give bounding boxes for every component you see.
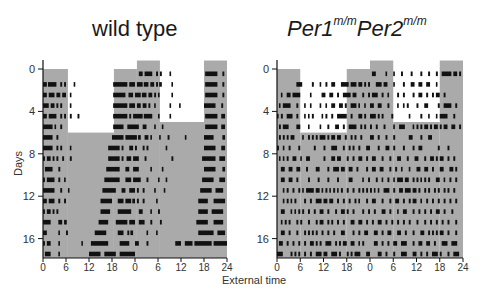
x-tick-label: 18 [341,262,353,273]
actogram-per-mutant: 048121606121806121824 [0,0,481,294]
y-tick-label: 12 [257,190,269,202]
x-axis: 06121806121824 [274,258,469,273]
x-tick-label: 12 [411,262,423,273]
x-tick-label: 18 [434,262,446,273]
x-tick-label: 12 [318,262,330,273]
y-tick-label: 4 [263,105,269,117]
y-tick-label: 8 [263,148,269,160]
y-axis-label: Days [12,151,24,176]
y-tick-label: 0 [263,63,269,75]
x-tick-label: 24 [457,262,469,273]
x-tick-label: 6 [297,262,303,273]
x-axis-label: External time [222,274,286,286]
y-axis: 0481216 [257,60,277,258]
y-tick-label: 16 [257,233,269,245]
x-tick-label: 0 [274,262,280,273]
x-tick-label: 6 [390,262,396,273]
light-phase-shading [277,61,463,258]
x-tick-label: 0 [367,262,373,273]
